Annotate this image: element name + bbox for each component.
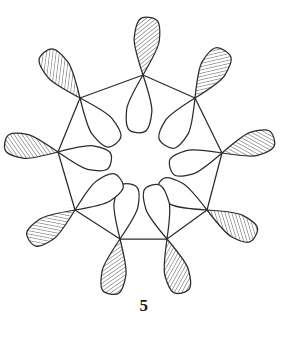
- ring-bond: [195, 98, 222, 153]
- shaded-lobe: [201, 199, 261, 246]
- orbital-node-7: [23, 169, 128, 251]
- shaded-lobe: [130, 16, 161, 76]
- ring-bond: [167, 210, 207, 239]
- open-lobe: [70, 90, 126, 151]
- shaded-lobe: [155, 236, 194, 297]
- figure-container: 5: [0, 0, 288, 342]
- figure-label: 5: [0, 296, 288, 316]
- ring-bond: [58, 98, 80, 152]
- open-lobe: [154, 91, 206, 152]
- shaded-lobe: [23, 200, 82, 251]
- orbital-node-2: [154, 44, 236, 153]
- shaded-lobe: [184, 44, 236, 105]
- orbital-lobe-layer: [3, 16, 278, 296]
- shaded-lobe: [34, 45, 90, 106]
- orbital-node-9: [34, 45, 125, 152]
- shaded-lobe: [219, 126, 278, 164]
- orbital-node-1: [124, 16, 161, 134]
- orbital-ring-diagram: [0, 0, 288, 342]
- shaded-lobe: [3, 131, 60, 164]
- open-lobe: [124, 74, 155, 134]
- ring-bond: [143, 75, 195, 98]
- shaded-lobe: [98, 237, 132, 296]
- ring-bond: [75, 210, 120, 239]
